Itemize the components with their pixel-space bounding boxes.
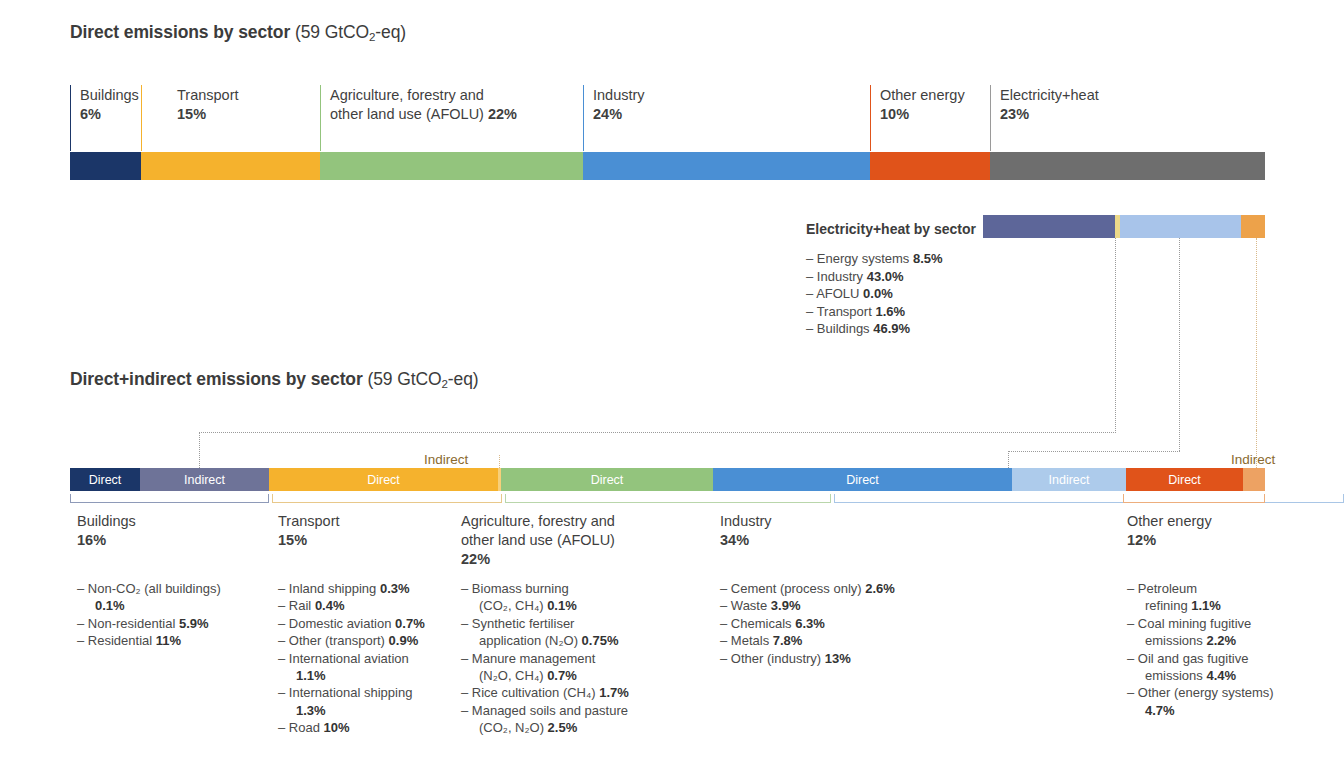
cat-label-buildings-pct: 6%: [80, 106, 101, 122]
connector-buildings-horizontal: [199, 432, 1116, 433]
sector-list-afolu: – Biomass burning(CO₂, CH₄) 0.1% – Synth…: [461, 580, 711, 737]
sector-head-afolu: Agriculture, forestry and other land use…: [461, 512, 615, 569]
bar2-label-buildings-direct: Direct: [89, 473, 122, 487]
cat-label-transport-pct: 15%: [177, 106, 206, 122]
sector-head-afolu-name-line2: other land use (AFOLU): [461, 532, 615, 548]
list-item: – Non-residential 5.9%: [77, 615, 267, 632]
tick-electricity-heat: [990, 85, 991, 151]
electricity-heat-callout-title: Electricity+heat by sector: [806, 221, 976, 237]
tick-transport: [141, 85, 142, 151]
sector-list-buildings: – Non-CO₂ (all buildings)0.1% – Non-resi…: [77, 580, 267, 650]
list-item: – Non-CO₂ (all buildings)0.1%: [77, 580, 267, 615]
chart1-stacked-bar: [70, 152, 1265, 180]
bracket-buildings: [70, 494, 269, 503]
list-item: – Coal mining fugitiveemissions 2.2%: [1127, 615, 1287, 650]
cat-label-buildings: Buildings 6%: [80, 86, 139, 123]
chart2-stacked-bar: Direct Indirect Direct Direct Direct Ind…: [70, 468, 1265, 491]
bar2-label-transport-direct: Direct: [367, 473, 400, 487]
connector-industry-horizontal: [1008, 451, 1180, 452]
bar2-label-industry-indirect: Indirect: [1049, 473, 1090, 487]
bar2-segment-buildings-direct[interactable]: Direct: [70, 468, 140, 491]
list-item: – Other (industry) 13%: [720, 650, 1000, 667]
sector-head-industry: Industry 34%: [720, 512, 772, 550]
bar2-segment-afolu-direct[interactable]: Direct: [501, 468, 713, 491]
cat-label-afolu-pct: 22%: [488, 106, 517, 122]
bracket-transport: [272, 494, 502, 503]
bracket-afolu: [505, 494, 831, 503]
cat-label-buildings-name: Buildings: [80, 86, 139, 105]
cat-label-electricity-heat-name: Electricity+heat: [1000, 86, 1099, 105]
bar2-label-industry-direct: Direct: [846, 473, 879, 487]
electricity-heat-minibar: [983, 215, 1265, 238]
bar1-segment-transport[interactable]: [141, 152, 320, 180]
list-item: – Inland shipping 0.3%: [278, 580, 453, 597]
cat-label-afolu: Agriculture, forestry and other land use…: [330, 86, 517, 123]
sector-head-other-energy: Other energy 12%: [1127, 512, 1212, 550]
sector-list-industry: – Cement (process only) 2.6% – Waste 3.9…: [720, 580, 1000, 667]
list-item: – Road 10%: [278, 719, 453, 736]
chart2-title-strong: Direct+indirect emissions by sector: [70, 369, 363, 389]
sector-head-transport: Transport 15%: [278, 512, 340, 550]
connector-buildings-vertical-left: [199, 432, 200, 468]
sector-head-buildings-name: Buildings: [77, 513, 136, 529]
sector-head-industry-pct: 34%: [720, 531, 772, 550]
bar2-segment-buildings-indirect[interactable]: Indirect: [140, 468, 269, 491]
indirect-tag-other-energy: Indirect: [1231, 452, 1275, 467]
list-item: – Chemicals 6.3%: [720, 615, 1000, 632]
list-item: – International aviation1.1%: [278, 650, 453, 685]
bar2-label-afolu-direct: Direct: [591, 473, 624, 487]
list-item: – Metals 7.8%: [720, 632, 1000, 649]
bar1-segment-other-energy[interactable]: [870, 152, 990, 180]
cat-label-afolu-name-line1: Agriculture, forestry and: [330, 86, 517, 105]
sector-list-transport: – Inland shipping 0.3% – Rail 0.4% – Dom…: [278, 580, 453, 737]
list-item: – Managed soils and pasture(CO₂, N₂O) 2.…: [461, 702, 711, 737]
minibar-segment-buildings[interactable]: [983, 215, 1115, 238]
connector-other-energy-vertical-top: [1256, 238, 1257, 430]
eh-item-energy-systems: – Energy systems 8.5%: [806, 250, 943, 268]
list-item: – Cement (process only) 2.6%: [720, 580, 1000, 597]
eh-item-buildings: – Buildings 46.9%: [806, 320, 943, 338]
sector-list-other-energy: – Petroleumrefining 1.1% – Coal mining f…: [1127, 580, 1287, 719]
tick-other-energy: [870, 85, 871, 151]
bar1-segment-buildings[interactable]: [70, 152, 141, 180]
eh-item-industry: – Industry 43.0%: [806, 268, 943, 286]
bar1-segment-industry[interactable]: [583, 152, 870, 180]
cat-label-industry-pct: 24%: [593, 106, 622, 122]
list-item: – Domestic aviation 0.7%: [278, 615, 453, 632]
list-item: – Synthetic fertiliserapplication (N₂O) …: [461, 615, 711, 650]
chart1-title-unit: (59 GtCO2-eq): [295, 22, 406, 42]
bar2-segment-other-energy-direct[interactable]: Direct: [1126, 468, 1243, 491]
list-item: – International shipping1.3%: [278, 684, 453, 719]
bar2-segment-industry-indirect[interactable]: Indirect: [1012, 468, 1126, 491]
list-item: – Biomass burning(CO₂, CH₄) 0.1%: [461, 580, 711, 615]
connector-buildings-vertical-top: [1115, 238, 1116, 433]
minibar-segment-industry[interactable]: [1120, 215, 1241, 238]
sector-head-transport-name: Transport: [278, 513, 340, 529]
sector-head-buildings-pct: 16%: [77, 531, 136, 550]
cat-label-other-energy: Other energy 10%: [880, 86, 965, 123]
sector-head-industry-name: Industry: [720, 513, 772, 529]
cat-label-transport-name: Transport: [177, 86, 239, 105]
chart2-title-unit: (59 GtCO2-eq): [367, 369, 478, 389]
bar2-segment-transport-direct[interactable]: Direct: [269, 468, 498, 491]
list-item: – Residential 11%: [77, 632, 267, 649]
tick-buildings: [70, 85, 71, 151]
bar1-segment-afolu[interactable]: [320, 152, 583, 180]
connector-transport-vertical: [499, 455, 500, 468]
list-item: – Petroleumrefining 1.1%: [1127, 580, 1287, 615]
cat-label-industry-name: Industry: [593, 86, 645, 105]
bar1-segment-electricity-heat[interactable]: [990, 152, 1265, 180]
bar2-segment-industry-direct[interactable]: Direct: [713, 468, 1012, 491]
minibar-segment-energy-systems[interactable]: [1241, 215, 1265, 238]
chart1-title: Direct emissions by sector (59 GtCO2-eq): [70, 22, 406, 43]
bar2-segment-other-energy-indirect[interactable]: [1243, 468, 1265, 491]
cat-label-other-energy-pct: 10%: [880, 106, 909, 122]
cat-label-other-energy-name: Other energy: [880, 86, 965, 105]
list-item: – Rice cultivation (CH₄) 1.7%: [461, 684, 711, 701]
indirect-tag-transport: Indirect: [424, 452, 468, 467]
electricity-heat-breakdown-list: – Energy systems 8.5% – Industry 43.0% –…: [806, 250, 943, 338]
cat-label-electricity-heat-pct: 23%: [1000, 106, 1029, 122]
tick-industry: [583, 85, 584, 151]
list-item: – Other (energy systems)4.7%: [1127, 684, 1287, 719]
list-item: – Other (transport) 0.9%: [278, 632, 453, 649]
